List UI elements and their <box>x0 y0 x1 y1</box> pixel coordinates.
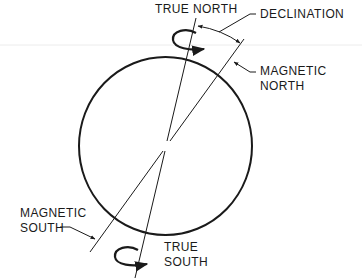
true-north-text: TRUE NORTH <box>155 2 237 17</box>
true-axis-lower <box>135 151 165 278</box>
globe-circle <box>79 57 252 235</box>
true-axis-upper <box>167 18 196 141</box>
declination-text: DECLINATION <box>260 7 344 22</box>
declination-label: DECLINATION <box>260 7 344 22</box>
magnetic-north-line1: MAGNETIC <box>260 64 327 79</box>
true-south-line2: SOUTH <box>164 255 208 270</box>
rotation-arrow-icon <box>115 247 147 265</box>
magnetic-axis-lower <box>90 151 163 252</box>
magnetic-north-label: MAGNETIC NORTH <box>260 64 327 94</box>
magnetic-north-leader <box>234 62 256 72</box>
true-south-label: TRUE SOUTH <box>164 240 208 270</box>
true-south-line1: TRUE <box>164 240 208 255</box>
magnetic-south-label: MAGNETIC SOUTH <box>20 206 87 236</box>
earth-declination-diagram <box>0 0 362 280</box>
rotation-arrow-icon <box>173 30 204 49</box>
magnetic-south-line1: MAGNETIC <box>20 206 87 221</box>
magnetic-south-line2: SOUTH <box>20 221 87 236</box>
declination-arc <box>198 26 240 43</box>
magnetic-north-line2: NORTH <box>260 79 327 94</box>
true-north-label: TRUE NORTH <box>155 2 237 17</box>
